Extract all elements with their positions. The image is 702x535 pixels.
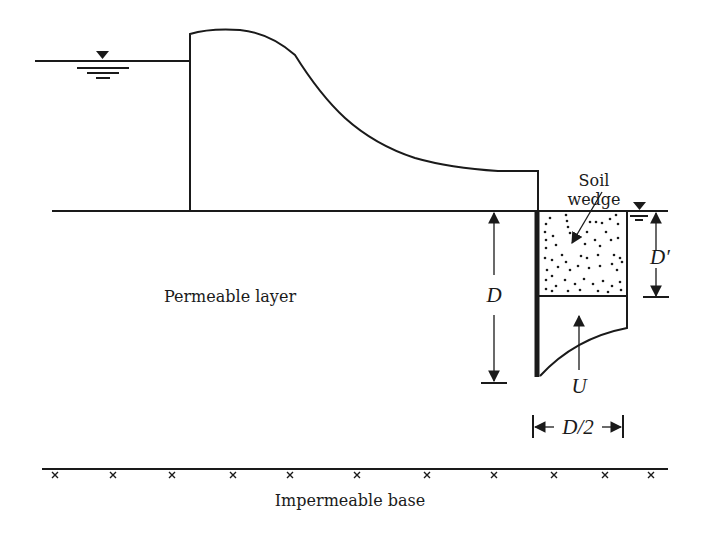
impermeable-base-label: Impermeable base (275, 491, 425, 510)
dimension-d: D (481, 213, 507, 383)
soil-wedge (538, 211, 627, 377)
soil-dots (544, 214, 624, 294)
dimension-d-half: D/2 (533, 415, 623, 439)
d-half-label: D/2 (561, 415, 594, 439)
water-level-triangle-icon (633, 202, 646, 210)
uplift-region (540, 296, 627, 376)
u-label: U (571, 374, 588, 398)
upstream-water (35, 51, 190, 78)
d-prime-label: D′ (649, 245, 670, 269)
soil-wedge-label-line1: Soil (579, 171, 610, 190)
permeable-layer-label: Permeable layer (164, 287, 296, 306)
uplift-force: U (571, 316, 588, 398)
d-label: D (485, 283, 501, 307)
impermeable-base: Impermeable base (42, 469, 668, 510)
seepage-diagram: Soil wedge D′ D U D/2 Permeable layer (0, 0, 702, 535)
dimension-d-prime: D′ (643, 213, 670, 297)
base-x-marks (52, 472, 654, 478)
water-level-triangle-icon (96, 51, 109, 59)
dam-body (190, 30, 538, 212)
